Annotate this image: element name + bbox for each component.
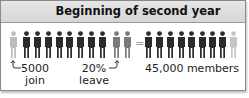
person-icon-leaving [123,31,132,59]
person-icon-member [22,31,31,59]
result-label: 45,000 members [144,63,240,75]
person-icon-member [208,31,217,59]
person-icon-member [44,31,53,59]
leave-text: leave [79,75,109,87]
person-icon-member [218,31,227,59]
person-icon-member [55,31,64,59]
person-icon-member [166,31,175,59]
person-icon-member [198,31,207,59]
person-icon-member [177,31,186,59]
person-icon-member [87,31,96,59]
equals-sign: = [135,39,144,49]
person-icon-member [33,31,42,59]
panel-title: Beginning of second year [1,1,245,23]
person-icon-member [144,31,153,59]
join-label: 5000 join [20,63,50,87]
leave-label: 20% leave [79,63,109,87]
person-icon-member [76,31,85,59]
person-icon-member [155,31,164,59]
person-icon-new-member [229,31,238,59]
person-icon-joining [9,31,18,59]
person-icon-member [98,31,107,59]
join-text: join [20,75,50,87]
person-icon-member [187,31,196,59]
person-icon-member [65,31,74,59]
person-icon-leaving [112,31,121,59]
leave-arrow-icon [108,60,120,71]
infographic-panel: Beginning of second year = [0,0,246,91]
